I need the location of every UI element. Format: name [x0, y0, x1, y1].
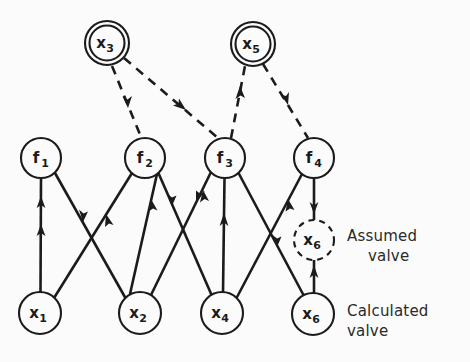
arrowhead-up: [105, 214, 114, 227]
node-x2-subscript: 2: [139, 312, 147, 325]
node-f1-base: f: [33, 149, 40, 167]
edge-f3-x2: [151, 172, 211, 295]
edge-x4-f3: [220, 178, 229, 293]
node-f1-subscript: 1: [41, 157, 49, 170]
edge-x3-f3: [124, 58, 218, 138]
edge-f2-x4: [158, 172, 212, 296]
node-x6-assumed[interactable]: x 6: [294, 220, 334, 260]
node-x6-assumed-subscript: 6: [313, 239, 321, 252]
node-x4-base: x: [211, 304, 221, 322]
arrowhead-down: [123, 96, 133, 108]
node-x5-base: x: [242, 35, 252, 53]
node-f2[interactable]: f 2: [125, 138, 165, 178]
edge-f3-x5: [231, 66, 245, 138]
node-f4[interactable]: f 4: [294, 138, 334, 178]
node-f3-subscript: 3: [225, 157, 233, 170]
node-f2-subscript: 2: [145, 157, 153, 170]
legend-layer: Assumed valve Calculated valve: [347, 227, 429, 340]
node-f3[interactable]: f 3: [205, 138, 245, 178]
node-x4-subscript: 4: [221, 312, 229, 325]
node-x6[interactable]: x 6: [292, 293, 334, 335]
node-x3-base: x: [96, 34, 106, 52]
node-x3[interactable]: x 3: [85, 21, 129, 65]
node-x6-assumed-base: x: [303, 231, 313, 249]
legend-calculated-valve: Calculated valve: [347, 302, 429, 340]
node-x4[interactable]: x 4: [201, 292, 243, 334]
legend-calculated-line2: valve: [347, 322, 388, 340]
node-f3-base: f: [217, 149, 224, 167]
legend-assumed-line1: Assumed: [347, 227, 417, 245]
flow-diagram-figure: x 3 x 5 f 1 f 2: [0, 0, 470, 362]
node-f4-subscript: 4: [314, 157, 322, 170]
node-x1-base: x: [29, 304, 39, 322]
node-layer: x 3 x 5 f 1 f 2: [19, 21, 334, 335]
node-x1-subscript: 1: [39, 312, 47, 325]
arrowhead-up: [236, 86, 246, 99]
edge-x1-f1: [37, 178, 46, 292]
edge-x6-x6assumed: [310, 260, 319, 293]
node-f1[interactable]: f 1: [21, 138, 61, 178]
graph-canvas: x 3 x 5 f 1 f 2: [0, 0, 470, 362]
edge-x5-f4: [263, 64, 308, 138]
node-x6-subscript: 6: [312, 313, 320, 326]
node-x5[interactable]: x 5: [231, 22, 275, 66]
legend-calculated-line1: Calculated: [347, 302, 429, 320]
node-x5-subscript: 5: [252, 43, 260, 56]
edge-layer: [37, 58, 319, 299]
node-x6-base: x: [302, 305, 312, 323]
node-x3-subscript: 3: [106, 42, 114, 55]
edge-x2-f2: [130, 174, 158, 294]
node-x2-base: x: [129, 304, 139, 322]
edge-x3-f2: [112, 66, 141, 137]
legend-assumed-valve: Assumed valve: [347, 227, 417, 265]
legend-assumed-line2: valve: [368, 247, 409, 265]
node-x1[interactable]: x 1: [19, 292, 61, 334]
node-f4-base: f: [306, 149, 313, 167]
node-x2[interactable]: x 2: [119, 292, 161, 334]
edge-x4-f4: [236, 174, 302, 299]
node-f2-base: f: [137, 149, 144, 167]
edge-f4-x6assumed: [310, 178, 319, 220]
